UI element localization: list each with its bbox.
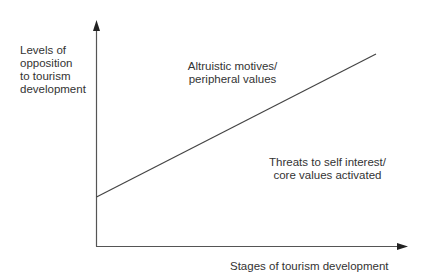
- diagram-canvas: [0, 0, 423, 279]
- y-label-line: opposition: [20, 57, 86, 70]
- above-line-annotation: Altruistic motives/ peripheral values: [170, 60, 295, 86]
- annotation-line: peripheral values: [170, 73, 295, 86]
- y-label-line: Levels of: [20, 44, 86, 57]
- y-axis-arrow-icon: [93, 20, 100, 31]
- annotation-line: core values activated: [255, 169, 400, 182]
- x-axis-arrow-icon: [397, 243, 408, 250]
- y-axis-label: Levels of opposition to tourism developm…: [20, 44, 86, 96]
- y-label-line: development: [20, 83, 86, 96]
- x-axis-label: Stages of tourism development: [230, 260, 389, 273]
- below-line-annotation: Threats to self interest/ core values ac…: [255, 156, 400, 182]
- y-label-line: to tourism: [20, 70, 86, 83]
- annotation-line: Threats to self interest/: [255, 156, 400, 169]
- annotation-line: Altruistic motives/: [170, 60, 295, 73]
